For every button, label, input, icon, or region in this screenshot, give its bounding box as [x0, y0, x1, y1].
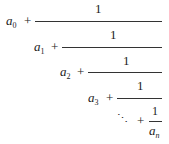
- term-an: an: [149, 124, 160, 142]
- plus-sign: +: [77, 65, 84, 78]
- plus-sign: +: [51, 40, 58, 53]
- numerator: 1: [152, 105, 158, 118]
- term-subscript: 1: [41, 47, 45, 56]
- term-a3: a3: [88, 91, 99, 109]
- fraction-bar: [62, 47, 162, 48]
- diagonal-dots: ⋱: [117, 112, 128, 125]
- term-a0: a0: [6, 14, 17, 32]
- numerator: 1: [110, 28, 117, 41]
- term-subscript: n: [156, 131, 160, 140]
- fraction-bar: [35, 21, 162, 22]
- term-subscript: 2: [67, 72, 71, 81]
- fraction-bar: [117, 98, 162, 99]
- term-a2: a2: [60, 65, 71, 83]
- numerator: 1: [123, 54, 130, 67]
- plus-sign: +: [137, 114, 144, 127]
- numerator: 1: [137, 79, 144, 92]
- fraction-bar: [149, 121, 162, 122]
- fraction-bar: [88, 72, 162, 73]
- plus-sign: +: [24, 14, 31, 27]
- term-subscript: 0: [13, 21, 17, 30]
- term-subscript: 3: [95, 98, 99, 107]
- term-a1: a1: [34, 40, 45, 58]
- numerator: 1: [95, 2, 102, 15]
- plus-sign: +: [106, 91, 113, 104]
